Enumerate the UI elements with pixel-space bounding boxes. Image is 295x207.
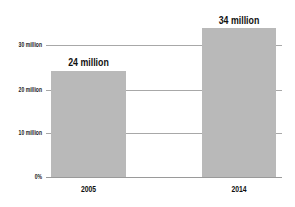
bar-chart: 30 million 20 million 10 million 0% 24 m… bbox=[0, 0, 295, 207]
value-label-2005: 24 million bbox=[59, 56, 119, 68]
bar-2014 bbox=[202, 28, 276, 177]
y-tick-label: 20 million bbox=[0, 86, 42, 94]
x-tick-label: 2005 bbox=[59, 184, 119, 194]
y-tick-label: 0% bbox=[0, 173, 42, 181]
bar-2005 bbox=[51, 71, 126, 177]
y-tick-label: 30 million bbox=[0, 41, 42, 49]
y-tick-label: 10 million bbox=[0, 129, 42, 137]
x-tick-label: 2014 bbox=[209, 184, 268, 194]
baseline bbox=[46, 177, 282, 178]
value-label-2014: 34 million bbox=[209, 14, 268, 26]
